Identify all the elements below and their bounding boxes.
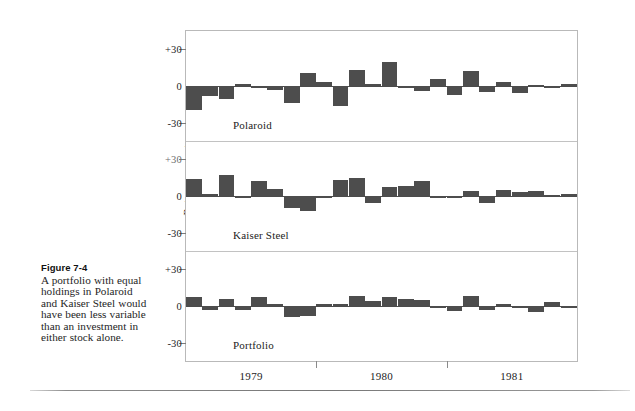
bar <box>186 86 202 110</box>
panel-label: Polaroid <box>233 119 272 131</box>
bar <box>398 186 414 196</box>
figure-caption-title: Figure 7-4 <box>41 262 149 273</box>
bar <box>561 84 577 86</box>
y-tick-label: -30 <box>167 117 182 128</box>
bar <box>349 296 365 306</box>
bar <box>398 299 414 306</box>
bar <box>463 296 479 306</box>
bar <box>479 306 495 310</box>
bar <box>219 299 235 306</box>
bar <box>479 196 495 203</box>
bar <box>447 306 463 311</box>
bar <box>251 297 267 306</box>
bar <box>382 62 398 86</box>
y-tick-label: -30 <box>167 337 182 348</box>
bar <box>316 196 332 198</box>
bar <box>202 194 218 196</box>
bar <box>528 85 544 87</box>
bar <box>561 306 577 308</box>
panel-label: Portfolio <box>233 339 274 351</box>
bar <box>430 196 446 198</box>
bar <box>479 86 495 92</box>
bar <box>414 181 430 196</box>
bar <box>365 84 381 86</box>
bar <box>447 196 463 198</box>
bar <box>219 175 235 196</box>
plot-area: +300-30Polaroid+300-30Kaiser Steel+300-3… <box>185 30 578 362</box>
bar <box>284 306 300 317</box>
bar <box>333 180 349 196</box>
bar <box>300 73 316 86</box>
bar <box>544 86 560 88</box>
bar <box>333 304 349 306</box>
bar <box>186 297 202 306</box>
bar <box>235 196 251 198</box>
page-rule <box>30 390 630 391</box>
bar <box>528 191 544 196</box>
chart-panel-polaroid: +300-30Polaroid <box>186 31 577 141</box>
bar <box>251 86 267 88</box>
y-tick-label: -30 <box>167 227 182 238</box>
bar <box>333 86 349 106</box>
y-tick-label: 0 <box>177 81 182 92</box>
x-tick <box>316 361 317 368</box>
bar <box>528 306 544 312</box>
bar <box>316 304 332 306</box>
bar <box>496 82 512 86</box>
bar <box>447 86 463 95</box>
bar <box>284 86 300 103</box>
bar <box>414 300 430 306</box>
x-tick-label: 1980 <box>370 370 393 382</box>
y-tick-label: +30 <box>165 264 182 275</box>
bar <box>349 178 365 196</box>
bar <box>186 179 202 196</box>
bar <box>496 304 512 306</box>
bar <box>300 306 316 316</box>
y-tick-label: 0 <box>177 301 182 312</box>
bar <box>414 86 430 91</box>
bar <box>219 86 235 99</box>
y-tick-label: +30 <box>165 44 182 55</box>
figure-chart: Return, percent +300-30Polaroid+300-30Ka… <box>135 20 585 380</box>
bar <box>284 196 300 208</box>
bar <box>349 70 365 86</box>
bar <box>235 84 251 86</box>
y-tick-label: 0 <box>177 191 182 202</box>
figure-caption: Figure 7-4 A portfolio with equal holdin… <box>41 262 149 343</box>
bar <box>463 191 479 196</box>
bar <box>365 196 381 203</box>
bar <box>544 195 560 197</box>
x-tick-label: 1979 <box>240 370 263 382</box>
y-tick-label: +30 <box>165 154 182 165</box>
chart-panel-kaiser-steel: +300-30Kaiser Steel <box>186 141 577 251</box>
bar <box>382 297 398 306</box>
bar <box>202 306 218 310</box>
bar <box>267 86 283 90</box>
x-tick <box>447 361 448 368</box>
bar <box>267 189 283 196</box>
chart-panel-portfolio: +300-30Portfolio <box>186 251 577 361</box>
bar <box>463 71 479 86</box>
bar <box>561 194 577 196</box>
bar <box>430 79 446 86</box>
bar <box>251 181 267 196</box>
bar <box>235 306 251 310</box>
bar <box>398 86 414 88</box>
bar <box>382 187 398 196</box>
figure-caption-body: A portfolio with equal holdings in Polar… <box>41 275 149 343</box>
panel-label: Kaiser Steel <box>233 229 289 241</box>
bar <box>202 86 218 96</box>
bar <box>316 82 332 86</box>
bar <box>512 86 528 93</box>
bar <box>512 306 528 308</box>
bar <box>496 190 512 196</box>
bar <box>365 301 381 306</box>
bar <box>430 306 446 308</box>
bar <box>267 304 283 306</box>
x-tick-label: 1981 <box>500 370 523 382</box>
bar <box>544 302 560 306</box>
bar <box>300 196 316 211</box>
bar <box>512 192 528 196</box>
